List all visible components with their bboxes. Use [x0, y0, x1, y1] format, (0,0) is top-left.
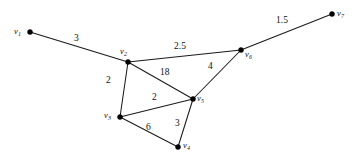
vertex-label-v7: v7	[337, 9, 344, 19]
vertex-label-v4: v4	[183, 141, 190, 151]
edge-weight-v3-v5: 2	[152, 93, 157, 103]
edge-weight-v3-v4: 6	[146, 123, 151, 133]
edge-weight-v5-v6: 4	[208, 62, 213, 72]
graph-edge-v2-v6	[128, 50, 241, 62]
edge-weight-v2-v5: 18	[160, 68, 170, 78]
edge-weight-v4-v5: 3	[175, 119, 180, 129]
vertex-label-subscript-v4: 4	[187, 145, 190, 151]
vertex-label-subscript-v6: 6	[249, 54, 252, 60]
vertex-label-v5: v5	[197, 94, 204, 104]
graph-canvas	[0, 0, 359, 164]
vertex-label-v3: v3	[104, 111, 111, 121]
vertex-label-subscript-v1: 1	[18, 31, 21, 37]
graph-vertex-v1	[28, 30, 33, 35]
edge-weight-v2-v6: 2.5	[174, 42, 186, 52]
edge-weight-v6-v7: 1.5	[276, 16, 288, 26]
vertex-label-subscript-v3: 3	[108, 115, 111, 121]
graph-vertex-v3	[118, 115, 123, 120]
graph-vertex-v2	[126, 60, 131, 65]
graph-vertex-v4	[176, 145, 181, 150]
graph-edge-v1-v2	[30, 32, 128, 62]
vertex-label-subscript-v7: 7	[341, 13, 344, 19]
edge-weight-v2-v3: 2	[106, 76, 111, 86]
graph-vertex-v5	[191, 97, 196, 102]
vertex-label-subscript-v2: 2	[124, 51, 127, 57]
vertex-label-v2: v2	[120, 47, 127, 57]
edge-weight-v1-v2: 3	[74, 34, 79, 44]
graph-vertex-v6	[239, 48, 244, 53]
graph-vertex-v7	[330, 12, 335, 17]
graph-edge-v5-v6	[193, 50, 241, 99]
vertex-label-subscript-v5: 5	[201, 98, 204, 104]
vertex-label-v6: v6	[245, 50, 252, 60]
weighted-graph-figure: v1v2v3v4v5v6v7 32.51.51842263	[0, 0, 359, 164]
vertex-label-v1: v1	[14, 27, 21, 37]
graph-edge-v2-v3	[120, 62, 128, 117]
